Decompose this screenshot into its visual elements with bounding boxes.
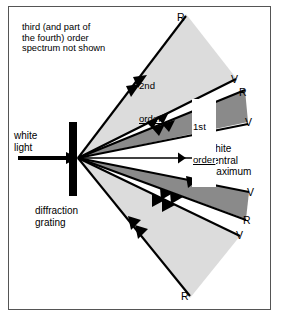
label-upper-first-order-violet: V — [245, 116, 252, 128]
first-order-label-line2: order — [193, 154, 215, 165]
label-upper-first-order-red: R — [239, 86, 247, 98]
second-order-label-line2: order — [139, 113, 161, 124]
third-order-note: third (and part of the fourth) order spe… — [22, 22, 105, 54]
second-order-label-line1: 2nd — [139, 80, 161, 91]
label-upper-second-order-red: R — [177, 11, 185, 23]
first-order-label-line1: 1st — [193, 121, 215, 132]
label-lower-first-order-red: R — [243, 214, 251, 226]
label-lower-first-order-violet: V — [247, 186, 254, 198]
diffraction-grating-label: diffraction grating — [35, 205, 78, 228]
white-light-label: white light — [14, 130, 37, 153]
diffraction-grating-bar — [69, 122, 77, 196]
label-upper-second-order-violet: V — [231, 73, 238, 85]
second-order-label: 2nd order — [139, 58, 161, 146]
label-lower-second-order-violet: V — [236, 229, 243, 241]
label-lower-second-order-red: R — [181, 290, 189, 302]
first-order-label: 1st order — [192, 99, 216, 187]
figure-canvas: third (and part of the fourth) order spe… — [0, 0, 282, 324]
